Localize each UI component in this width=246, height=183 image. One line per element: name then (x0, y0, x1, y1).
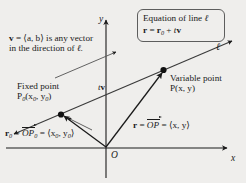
r-equation-equals-1: = (139, 120, 144, 130)
direction-note: v = ⟨a, b⟩ is any vector in the directio… (9, 33, 93, 54)
r-equation-lhs: r (133, 120, 137, 130)
point-p0-dot (58, 111, 64, 117)
fixed-point-coords-open: (x (25, 91, 33, 101)
equation-v-symbol: v (176, 25, 181, 35)
vector-r-equation: r = OP = ⟨x, y⟩ (133, 120, 190, 130)
direction-note-line1-rest: = ⟨a, b⟩ is any vector (14, 33, 93, 43)
fixed-point-label-group: Fixed point P0(x0, y0) (17, 81, 59, 102)
overline-arrow-tip-icon-2 (159, 116, 162, 118)
fixed-point-coords-close: ) (48, 91, 51, 101)
variable-point-label-group: Variable point P(x, y) (170, 73, 222, 94)
line-ell-label: ℓ (216, 41, 220, 52)
equation-r0-subscript: 0 (161, 29, 164, 36)
direction-note-line2-text: in the direction of (9, 43, 75, 53)
r0-equation-op0-subscript: 0 (34, 132, 37, 139)
r0-equation-op0-text: OP (22, 128, 34, 138)
overline-arrow-tip-icon (34, 124, 37, 126)
equation-callout-box: Equation of line ℓ r = r0 + tv (137, 9, 225, 42)
r0-components-mid: , y (58, 128, 67, 138)
r-equation-op-overline: OP (147, 120, 159, 130)
equation-plus-sign: + (166, 25, 171, 35)
vector-r (106, 73, 162, 147)
variable-point-label: Variable point (170, 73, 222, 83)
equation-box-line2: r = r0 + tv (143, 25, 220, 37)
fixed-point-coordinates: P0(x0, y0) (17, 91, 59, 102)
equation-equals-sign: = (149, 25, 154, 35)
equation-box-line1: Equation of line ℓ (143, 13, 220, 25)
ell-symbol-icon-2: ℓ. (77, 43, 83, 53)
vector-line-diagram: Equation of line ℓ r = r0 + tv v = ⟨a, b… (0, 0, 246, 183)
vector-r0-equation: r0 = OP0 = ⟨x0, y0⟩ (5, 128, 74, 139)
r0-equation-equals-2: = (40, 128, 45, 138)
callout-arrow-direction (55, 52, 116, 78)
tv-label-v: v (101, 82, 106, 92)
r0-equation-op0-overline: OP (22, 128, 34, 138)
direction-note-line1: v = ⟨a, b⟩ is any vector (9, 33, 93, 43)
ell-symbol-icon: ℓ (205, 13, 209, 23)
r0-equation-components: ⟨x0, y0⟩ (47, 128, 74, 138)
variable-point-coordinates: P(x, y) (170, 83, 222, 93)
fixed-point-label: Fixed point (17, 81, 59, 91)
r-equation-equals-2: = (161, 120, 166, 130)
fixed-point-coords-mid: , y (36, 91, 45, 101)
r-equation-op-text: OP (147, 120, 159, 130)
point-p-dot (160, 67, 166, 73)
r0-equation-lhs-subscript: 0 (9, 132, 12, 139)
r0-components-close: ⟩ (71, 128, 75, 138)
equation-r-symbol: r (143, 25, 147, 35)
r0-equation-equals-1: = (15, 128, 20, 138)
direction-note-line2: in the direction of ℓ. (9, 43, 93, 53)
y-axis-label: y (99, 14, 103, 25)
x-axis-label: x (231, 153, 235, 164)
r-equation-components: ⟨x, y⟩ (169, 120, 190, 130)
origin-label: O (111, 150, 118, 161)
equation-box-line1-text: Equation of line (143, 13, 202, 23)
tv-vector-label: tv (98, 82, 105, 92)
